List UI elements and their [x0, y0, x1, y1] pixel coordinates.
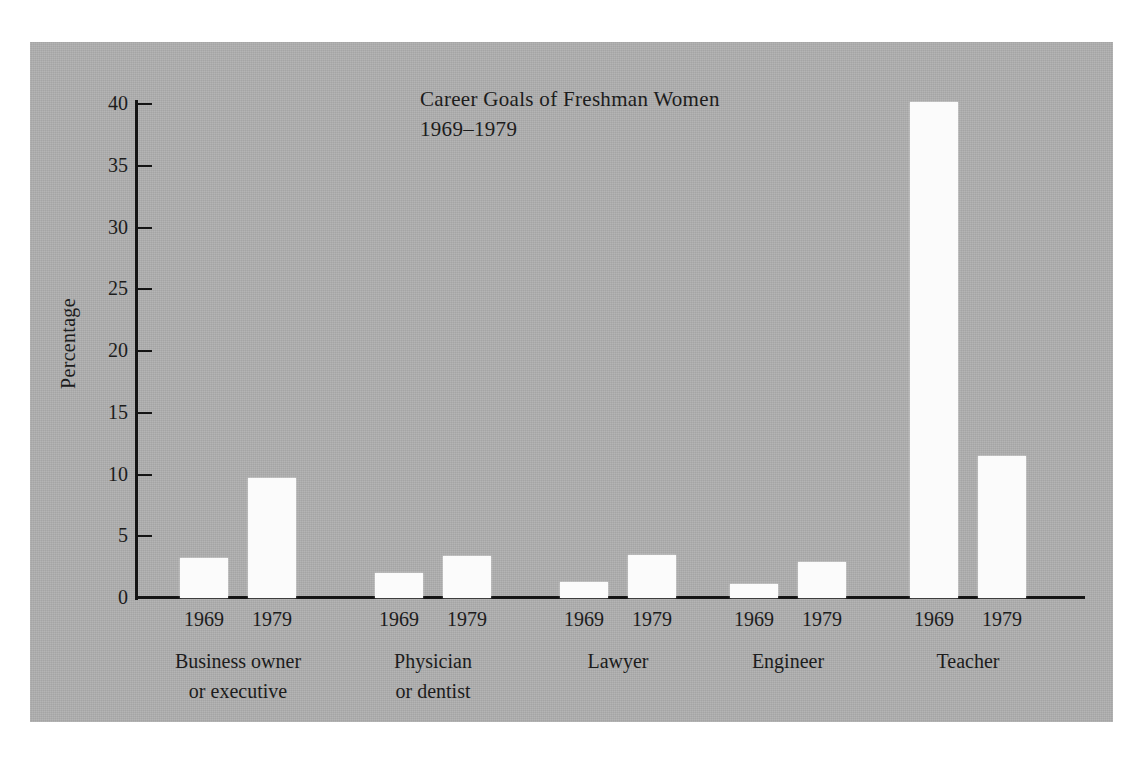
- y-axis-tick: [138, 474, 152, 476]
- y-axis-tick: [138, 165, 152, 167]
- y-axis-tick-label: 35: [68, 155, 128, 175]
- y-axis-tick-label: 25: [68, 278, 128, 298]
- bar: [443, 556, 491, 598]
- figure-panel: Career Goals of Freshman Women 1969–1979…: [30, 42, 1113, 722]
- bar: [375, 573, 423, 598]
- y-axis-tick: [138, 288, 152, 290]
- bar: [798, 562, 846, 598]
- bar: [730, 584, 778, 598]
- y-axis-tick-label: 15: [68, 402, 128, 422]
- y-axis-tick-label: 20: [68, 340, 128, 360]
- chart-title: Career Goals of Freshman Women 1969–1979: [420, 84, 720, 144]
- series-label: 1979: [777, 608, 867, 630]
- y-axis-tick-label: 5: [68, 525, 128, 545]
- plot-area: Career Goals of Freshman Women 1969–1979…: [30, 42, 1113, 722]
- bar: [248, 478, 296, 598]
- bar: [560, 582, 608, 598]
- y-axis-tick-label: 40: [68, 93, 128, 113]
- y-axis-tick-label: 10: [68, 464, 128, 484]
- y-axis-tick: [138, 350, 152, 352]
- series-label: 1979: [422, 608, 512, 630]
- y-axis-tick: [138, 597, 152, 599]
- y-axis-tick: [138, 103, 152, 105]
- series-label: 1979: [957, 608, 1047, 630]
- y-axis-tick-label: 30: [68, 217, 128, 237]
- category-label: Teacher: [848, 646, 1088, 676]
- bar: [978, 456, 1026, 598]
- category-label-line: Teacher: [848, 646, 1088, 676]
- series-label: 1979: [227, 608, 317, 630]
- y-axis-tick: [138, 227, 152, 229]
- y-axis-tick: [138, 535, 152, 537]
- chart-subtitle: 1969–1979: [420, 114, 720, 144]
- bar: [180, 558, 228, 598]
- bar: [910, 102, 958, 598]
- series-label: 1979: [607, 608, 697, 630]
- y-axis-tick-label: 0: [68, 587, 128, 607]
- chart-title-main: Career Goals of Freshman Women: [420, 84, 720, 114]
- y-axis-tick: [138, 412, 152, 414]
- bar: [628, 555, 676, 598]
- category-label-line: or dentist: [313, 676, 553, 706]
